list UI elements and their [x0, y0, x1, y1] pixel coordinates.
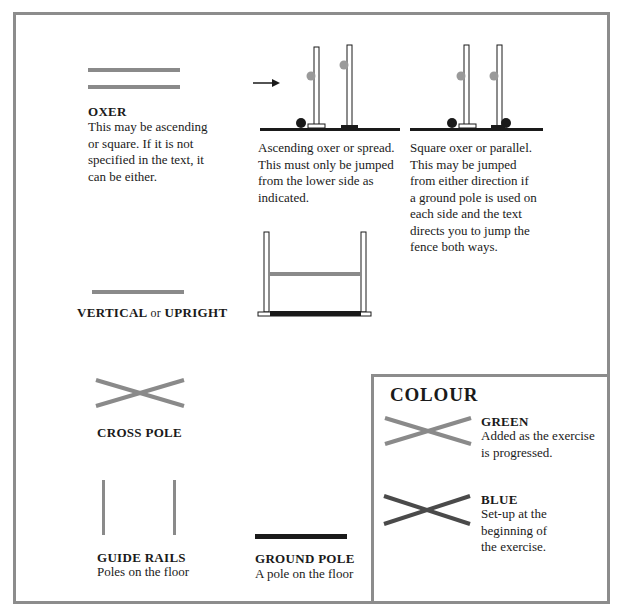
text-line: Added as the exercise	[481, 428, 595, 445]
oxer-poles-icon	[88, 68, 180, 92]
title-part: UPRIGHT	[165, 305, 228, 320]
text-line: the exercise.	[481, 539, 547, 556]
text-line: from the lower side as	[258, 173, 418, 190]
vertical-pole-icon	[92, 290, 184, 295]
title-joiner: or	[150, 306, 161, 320]
text-line: indicated.	[258, 190, 418, 207]
text-line: This must only be jumped	[258, 157, 418, 174]
vertical-fence-diagram	[258, 232, 373, 318]
text-line: specified in the text, it	[88, 152, 248, 169]
green-cross-pole-icon	[385, 416, 475, 448]
ascending-oxer-description: Ascending oxer or spread. This must only…	[258, 140, 418, 206]
text-line: Ascending oxer or spread.	[258, 140, 418, 157]
cross-pole-title: CROSS POLE	[97, 425, 182, 441]
text-line: Square oxer or parallel.	[410, 140, 590, 157]
guide-rails-icon	[102, 480, 182, 536]
guide-rails-description: Poles on the floor	[97, 564, 189, 581]
oxer-description: This may be ascending or square. If it i…	[88, 119, 248, 185]
text-line: This may be ascending	[88, 119, 248, 136]
direction-arrow-icon	[253, 79, 280, 87]
text-line: fence both ways.	[410, 239, 590, 256]
colour-key-box	[371, 374, 607, 601]
ground-pole-icon	[255, 534, 347, 540]
blue-description: Set-up at the beginning of the exercise.	[481, 506, 547, 556]
text-line: beginning of	[481, 523, 547, 540]
text-line: or square. If it is not	[88, 136, 248, 153]
square-oxer-description: Square oxer or parallel. This may be jum…	[410, 140, 590, 256]
oxer-title: OXER	[88, 104, 127, 120]
title-part: VERTICAL	[77, 305, 147, 320]
text-line: a ground pole is used on	[410, 190, 590, 207]
ascending-oxer-diagram	[253, 45, 403, 135]
text-line: each side and the text	[410, 206, 590, 223]
square-oxer-diagram	[409, 45, 544, 135]
cross-pole-icon	[96, 378, 186, 410]
green-description: Added as the exercise is progressed.	[481, 428, 595, 461]
colour-title: COLOUR	[390, 384, 478, 406]
text-line: is progressed.	[481, 445, 595, 462]
text-line: from either direction if	[410, 173, 590, 190]
ground-pole-description: A pole on the floor	[255, 566, 353, 583]
blue-cross-pole-icon	[384, 494, 474, 528]
ground-pole-title: GROUND POLE	[255, 551, 355, 567]
text-line: directs you to jump the	[410, 223, 590, 240]
text-line: This may be jumped	[410, 157, 590, 174]
text-line: can be either.	[88, 169, 248, 186]
text-line: Set-up at the	[481, 506, 547, 523]
vertical-title: VERTICAL or UPRIGHT	[77, 305, 227, 321]
